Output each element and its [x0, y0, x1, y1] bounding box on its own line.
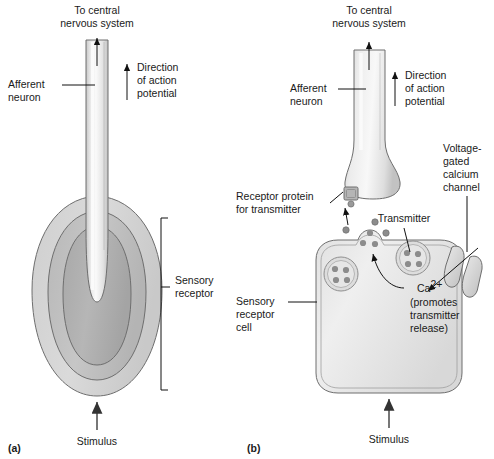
- sensory-receptor-diagram: To central nervous system Afferent neuro…: [0, 0, 494, 459]
- calcium-note-line1: (promotes: [410, 296, 457, 308]
- voltage-gated-label-line1: Voltage-: [443, 142, 482, 154]
- direction-label-a-line1: Direction: [137, 61, 179, 73]
- afferent-neuron-b: [345, 50, 400, 199]
- afferent-label-a-line2: neuron: [8, 91, 41, 103]
- sensory-receptor-label-a-line1: Sensory: [175, 274, 214, 286]
- transmitter-dot: [415, 251, 421, 257]
- direction-label-b-line3: potential: [405, 95, 445, 107]
- vesicle-lumen: [400, 245, 427, 272]
- sensory-receptor-label-a-line2: receptor: [175, 287, 214, 299]
- calcium-note-line3: release): [410, 322, 448, 334]
- receptor-protein-label-line2: for transmitter: [236, 203, 301, 215]
- direction-label-b-line1: Direction: [405, 69, 447, 81]
- calcium-ion-superscript: 2+: [430, 278, 442, 290]
- calcium-ion-base: Ca: [417, 282, 431, 294]
- transmitter-dot: [360, 240, 366, 246]
- direction-label-a-line2: of action: [137, 74, 177, 86]
- to-cns-label-a-line2: nervous system: [60, 17, 134, 29]
- panel-label-a: (a): [8, 442, 21, 454]
- panel-a: To central nervous system Afferent neuro…: [8, 4, 214, 454]
- voltage-gated-label-line2: gated: [443, 155, 469, 167]
- receptor-protein-group: [344, 187, 358, 207]
- transmitter-dot: [405, 261, 411, 267]
- receptor-protein-leader: [330, 192, 343, 203]
- direction-label-b-line2: of action: [405, 82, 445, 94]
- transmitter-label: Transmitter: [378, 212, 431, 224]
- sensory-receptor-cell-label-line1: Sensory: [236, 295, 275, 307]
- sensory-receptor-cell-label-line2: receptor: [236, 308, 275, 320]
- voltage-gated-label-line4: channel: [443, 181, 480, 193]
- receptor-bound-transmitter: [348, 201, 354, 207]
- voltage-gated-label-line3: calcium: [443, 168, 479, 180]
- sensory-receptor-cell-label-line3: cell: [236, 321, 252, 333]
- figure-container: To central nervous system Afferent neuro…: [0, 0, 494, 459]
- vesicle-lumen: [328, 261, 355, 288]
- transmitter-dot: [344, 277, 350, 283]
- neuron-terminal-b: [345, 50, 400, 199]
- transmitter-dot: [383, 230, 389, 236]
- transmitter-dot: [372, 241, 378, 247]
- to-cns-label-b-line2: nervous system: [332, 17, 406, 29]
- afferent-label-b-line1: Afferent: [290, 82, 327, 94]
- channel-subunit-right: [462, 256, 482, 297]
- transmitter-dot: [416, 261, 422, 267]
- transmitter-dot: [343, 267, 349, 273]
- transmitter-dot: [404, 250, 410, 256]
- nerve-ending-a: [86, 40, 108, 302]
- panel-b: To central nervous system Afferent neuro…: [236, 4, 482, 454]
- stimulus-label-b: Stimulus: [369, 433, 409, 445]
- sensory-receptor-bracket-a: [161, 218, 168, 390]
- vesicle: [324, 257, 358, 291]
- transmitter-dot: [332, 266, 338, 272]
- to-cns-label-a-line1: To central: [74, 4, 120, 16]
- stimulus-label-a: Stimulus: [77, 435, 117, 447]
- transmitter-dot: [333, 277, 339, 283]
- to-cns-label-b-line1: To central: [346, 4, 392, 16]
- transmitter-dot: [367, 230, 373, 236]
- calcium-note-line2: transmitter: [410, 309, 460, 321]
- afferent-label-b-line2: neuron: [290, 95, 323, 107]
- transmitter-dot: [343, 227, 349, 233]
- afferent-neuron-a: [86, 40, 108, 302]
- vesicle: [396, 241, 430, 275]
- panel-label-b: (b): [247, 442, 260, 454]
- afferent-label-a-line1: Afferent: [8, 78, 45, 90]
- transmitter-diffusion-arrow: [345, 208, 348, 225]
- direction-label-a-line3: potential: [137, 87, 177, 99]
- receptor-protein-label-line1: Receptor protein: [236, 190, 314, 202]
